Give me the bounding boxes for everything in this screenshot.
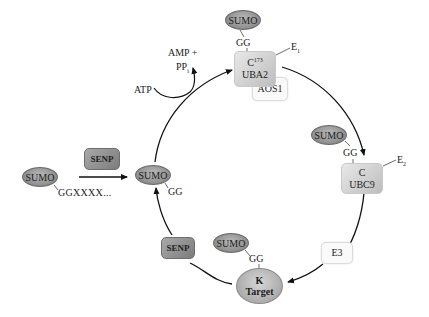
e3-ligase: E3 [321,242,353,264]
precursor-sumo: SUMO [22,167,58,187]
e1-cysteine: C173 [247,57,263,69]
cycle-arrows [0,0,429,317]
e2-sumo: SUMO [311,125,347,145]
atp-label: ATP [134,85,152,95]
e1-label: E1 [291,42,300,54]
ubc9-enzyme: C UBC9 [341,163,383,194]
target-label: Target [246,286,274,298]
mature-tail: GG [168,187,182,197]
mature-sumo: SUMO [135,165,171,185]
target-gg-linker: GG [249,254,263,264]
senp-processing-enzyme: SENP [84,148,120,170]
senp-deconjugation-enzyme: SENP [161,237,195,259]
target-protein: K Target [236,268,283,304]
precursor-tail: GGXXXX... [58,188,112,198]
ubc9-label: UBC9 [349,179,375,191]
e2-cysteine: C [359,167,366,179]
amp-label: AMP + [168,48,197,58]
target-sumo: SUMO [213,233,249,253]
uba2-label: UBA2 [242,69,268,81]
target-lysine: K [256,275,264,287]
e2-label: E2 [397,155,406,167]
e1-sumo: SUMO [225,10,261,30]
ppi-label: PPi [176,62,189,74]
uba2-subunit: C173 UBA2 [234,51,276,87]
e1-gg-linker: GG [236,38,250,48]
e2-gg-linker: GG [343,148,357,158]
